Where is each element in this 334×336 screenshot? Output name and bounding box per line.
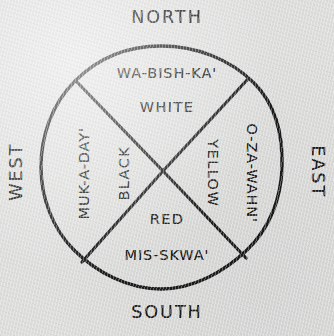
cardinal-label-west: WEST bbox=[8, 132, 26, 212]
quadrant-east-name: O-ZA-WAHN' bbox=[245, 87, 260, 259]
cardinal-label-east: EAST bbox=[308, 132, 326, 212]
quadrant-east-color: YELLOW bbox=[206, 87, 221, 259]
cardinal-label-south: SOUTH bbox=[0, 304, 334, 322]
quadrant-west-name: MUK-A-DAY' bbox=[77, 87, 92, 259]
wheel-graphic bbox=[0, 0, 334, 336]
quadrant-north-color: WHITE bbox=[0, 100, 334, 115]
four-directions-diagram: NORTH SOUTH WEST EAST WA-BISH-KA' WHITE … bbox=[0, 0, 334, 336]
quadrant-south-color: RED bbox=[0, 212, 334, 227]
quadrant-west-color: BLACK bbox=[117, 87, 132, 259]
quadrant-south-name: MIS-SKWA' bbox=[0, 248, 334, 263]
cardinal-label-north: NORTH bbox=[0, 9, 334, 27]
quadrant-north-name: WA-BISH-KA' bbox=[0, 66, 334, 81]
